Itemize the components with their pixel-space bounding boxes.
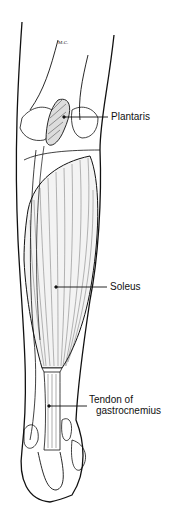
label-tendon-line2: gastrocnemius — [96, 405, 161, 416]
plantaris-muscle — [46, 99, 70, 145]
artist-signature: M.C. — [58, 40, 68, 45]
leg-illustration — [0, 0, 179, 509]
heel — [38, 452, 63, 490]
label-tendon-line1: Tendon of — [89, 394, 133, 405]
soleus-muscle — [24, 156, 98, 368]
label-plantaris: Plantaris — [111, 111, 150, 122]
label-soleus: Soleus — [110, 281, 141, 292]
